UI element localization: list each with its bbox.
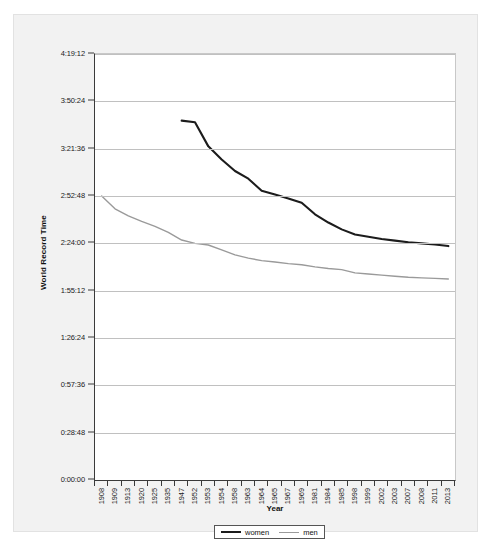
x-axis-tick-mark xyxy=(134,481,135,486)
x-axis-tick-mark xyxy=(94,481,95,486)
gridline xyxy=(95,196,455,197)
chart-legend: womenmen xyxy=(214,525,325,539)
y-axis-tick-mark xyxy=(88,289,94,290)
series-line-women xyxy=(182,121,449,246)
x-axis-tick-label: 1947 xyxy=(177,488,186,504)
x-axis-tick-mark xyxy=(281,481,282,486)
x-axis-tick-label: 1964 xyxy=(257,488,266,504)
y-axis-tick-mark xyxy=(88,337,94,338)
x-axis-tick-mark xyxy=(454,481,455,486)
x-axis-tick-mark xyxy=(267,481,268,486)
y-axis-tick-mark xyxy=(88,242,94,243)
y-axis-tick-mark xyxy=(88,53,94,54)
x-axis-tick-mark xyxy=(374,481,375,486)
x-axis-tick-mark xyxy=(414,481,415,486)
x-axis-tick-label: 1999 xyxy=(363,488,372,504)
y-axis-tick-label: 2:52:48 xyxy=(61,191,85,200)
x-axis-tick-label: 1952 xyxy=(190,488,199,504)
x-axis-tick-label: 1967 xyxy=(283,488,292,504)
x-axis-tick-mark xyxy=(441,481,442,486)
y-axis-tick-mark xyxy=(88,431,94,432)
x-axis-tick-mark xyxy=(427,481,428,486)
x-axis-tick-label: 1963 xyxy=(243,488,252,504)
x-axis-tick-label: 2007 xyxy=(403,488,412,504)
x-axis-tick-label: 1913 xyxy=(123,488,132,504)
x-axis-tick-label: 1925 xyxy=(150,488,159,504)
x-axis-tick-label: 1953 xyxy=(203,488,212,504)
x-axis-tick-mark xyxy=(294,481,295,486)
legend-item-men[interactable]: men xyxy=(279,528,318,537)
x-axis-tick-label: 1908 xyxy=(97,488,106,504)
x-axis-tick-mark xyxy=(334,481,335,486)
y-axis-tick-label: 1:26:24 xyxy=(61,333,85,342)
x-axis-title: Year xyxy=(94,504,456,513)
y-axis-tick-label: 3:21:36 xyxy=(61,143,85,152)
y-axis-tick-label: 0:57:36 xyxy=(61,380,85,389)
y-axis-tick-mark xyxy=(88,147,94,148)
x-axis-tick-mark xyxy=(361,481,362,486)
y-axis-tick-label: 0:00:00 xyxy=(61,475,85,484)
y-axis-tick-label: 1:55:12 xyxy=(61,285,85,294)
x-axis-tick-mark xyxy=(347,481,348,486)
x-axis-tick-label: 2002 xyxy=(377,488,386,504)
x-axis-tick-mark xyxy=(174,481,175,486)
gridline xyxy=(95,433,455,434)
x-axis-tick-label: 2011 xyxy=(430,488,439,504)
x-axis-tick-label: 1981 xyxy=(310,488,319,504)
x-axis-tick-mark xyxy=(401,481,402,486)
x-axis-tick-mark xyxy=(387,481,388,486)
x-axis-tick-label: 2008 xyxy=(417,488,426,504)
x-axis-tick-mark xyxy=(161,481,162,486)
x-axis-tick-label: 1984 xyxy=(323,488,332,504)
x-axis-tick-label: 1965 xyxy=(270,488,279,504)
x-axis-tick-label: 1969 xyxy=(297,488,306,504)
gridline xyxy=(95,291,455,292)
x-axis-tick-mark xyxy=(307,481,308,486)
legend-label: men xyxy=(303,528,318,537)
y-axis-tick-label: 4:19:12 xyxy=(61,49,85,58)
y-axis-tick-mark xyxy=(88,384,94,385)
gridline xyxy=(95,101,455,102)
gridline xyxy=(95,385,455,386)
x-axis-tick-mark xyxy=(187,481,188,486)
x-axis-tick-label: 2013 xyxy=(443,488,452,504)
legend-swatch-women-icon xyxy=(221,531,241,533)
x-axis-tick-label: 1909 xyxy=(110,488,119,504)
x-axis-tick-label: 1935 xyxy=(163,488,172,504)
x-axis-tick-label: 1985 xyxy=(337,488,346,504)
legend-item-women[interactable]: women xyxy=(221,528,269,537)
chart-frame: World Record Time 0:00:000:28:480:57:361… xyxy=(13,14,478,532)
legend-label: women xyxy=(245,528,269,537)
x-axis-tick-mark xyxy=(254,481,255,486)
x-axis-tick-mark xyxy=(107,481,108,486)
x-axis-tick-mark xyxy=(241,481,242,486)
x-axis-tick-mark xyxy=(201,481,202,486)
plot-area xyxy=(94,53,456,481)
y-axis-tick-mark xyxy=(88,479,94,480)
x-axis-tick-label: 1920 xyxy=(137,488,146,504)
y-axis-tick-label: 0:28:48 xyxy=(61,427,85,436)
x-axis-tick-mark xyxy=(121,481,122,486)
x-axis-tick-label: 1954 xyxy=(217,488,226,504)
gridline xyxy=(95,243,455,244)
series-line-men xyxy=(102,196,449,279)
gridline xyxy=(95,149,455,150)
gridline xyxy=(95,338,455,339)
gridline xyxy=(95,54,455,55)
x-axis-tick-mark xyxy=(321,481,322,486)
y-axis-tick-mark xyxy=(88,100,94,101)
y-axis-tick-label: 3:50:24 xyxy=(61,96,85,105)
legend-swatch-men-icon xyxy=(279,532,299,533)
y-axis-tick-labels: 0:00:000:28:480:57:361:26:241:55:122:24:… xyxy=(14,53,85,481)
x-axis-tick-mark xyxy=(227,481,228,486)
x-axis-tick-mark xyxy=(147,481,148,486)
x-axis-tick-mark xyxy=(214,481,215,486)
y-axis-tick-mark xyxy=(88,195,94,196)
x-axis-tick-label: 1998 xyxy=(350,488,359,504)
data-series-layer xyxy=(95,54,455,480)
x-axis-tick-label: 2003 xyxy=(390,488,399,504)
x-axis-tick-label: 1958 xyxy=(230,488,239,504)
y-axis-tick-label: 2:24:00 xyxy=(61,238,85,247)
